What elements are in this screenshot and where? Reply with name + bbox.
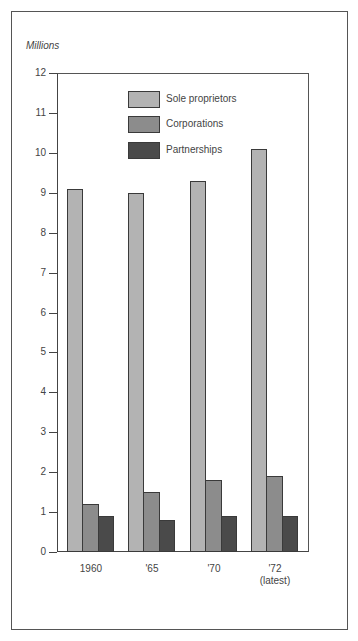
bar-corporations bbox=[205, 480, 221, 552]
legend-label: Corporations bbox=[166, 118, 223, 129]
x-tick-label: '70 bbox=[184, 563, 244, 575]
bar-corporations bbox=[143, 492, 159, 552]
y-tick-label: 1 bbox=[16, 506, 46, 517]
y-tick-label: 12 bbox=[16, 67, 46, 78]
y-tick-label: 9 bbox=[16, 187, 46, 198]
y-tick-label: 3 bbox=[16, 426, 46, 437]
legend-swatch bbox=[128, 116, 160, 133]
y-tick bbox=[49, 233, 57, 234]
y-tick-label: 6 bbox=[16, 307, 46, 318]
y-tick bbox=[49, 512, 57, 513]
y-tick bbox=[49, 432, 57, 433]
y-tick bbox=[49, 313, 57, 314]
y-tick bbox=[49, 392, 57, 393]
bar-corporations bbox=[266, 476, 282, 552]
y-tick-label: 10 bbox=[16, 147, 46, 158]
bar-sole-proprietors bbox=[67, 189, 83, 552]
bar-sole-proprietors bbox=[128, 193, 144, 552]
legend-label: Partnerships bbox=[166, 144, 222, 155]
y-tick bbox=[49, 352, 57, 353]
y-tick bbox=[49, 472, 57, 473]
y-tick-label: 2 bbox=[16, 466, 46, 477]
y-tick-label: 5 bbox=[16, 346, 46, 357]
x-tick-label: '65 bbox=[122, 563, 182, 575]
legend-swatch bbox=[128, 91, 160, 108]
x-tick-label: 1960 bbox=[61, 563, 121, 575]
bar-sole-proprietors bbox=[190, 181, 206, 552]
legend-label: Sole proprietors bbox=[166, 93, 237, 104]
bar-partnerships bbox=[282, 516, 298, 552]
y-tick-label: 11 bbox=[16, 107, 46, 118]
y-tick bbox=[49, 193, 57, 194]
bar-corporations bbox=[82, 504, 98, 552]
y-tick bbox=[49, 153, 57, 154]
y-tick bbox=[49, 113, 57, 114]
y-tick bbox=[49, 73, 57, 74]
bar-partnerships bbox=[221, 516, 237, 552]
y-tick bbox=[49, 552, 57, 553]
bar-sole-proprietors bbox=[251, 149, 267, 552]
y-tick-label: 8 bbox=[16, 227, 46, 238]
x-tick-label: '72(latest) bbox=[245, 563, 305, 587]
y-axis-unit-label: Millions bbox=[26, 40, 59, 51]
y-tick-label: 0 bbox=[16, 546, 46, 557]
legend-swatch bbox=[128, 142, 160, 159]
y-tick-label: 7 bbox=[16, 267, 46, 278]
y-tick bbox=[49, 273, 57, 274]
bar-partnerships bbox=[159, 520, 175, 552]
y-tick-label: 4 bbox=[16, 386, 46, 397]
bar-partnerships bbox=[98, 516, 114, 552]
